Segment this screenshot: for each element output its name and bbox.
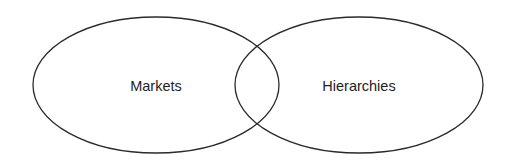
venn-diagram-svg: Markets Hierarchies	[0, 0, 510, 163]
hierarchies-label: Hierarchies	[322, 78, 395, 94]
venn-diagram: Markets Hierarchies	[0, 0, 510, 163]
markets-label: Markets	[130, 78, 182, 94]
